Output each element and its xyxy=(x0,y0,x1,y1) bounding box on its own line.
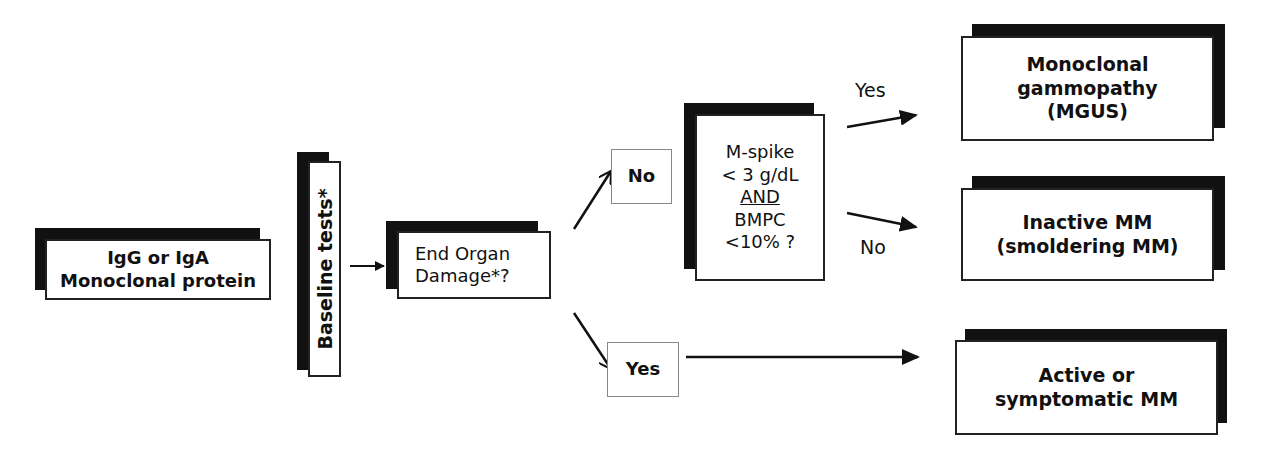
arrow-endorgan-to-no xyxy=(574,171,611,229)
endorgan-node-line-2: Damage*? xyxy=(415,265,510,288)
endorgan-node-line-1: End Organ xyxy=(415,243,510,266)
baseline-node: Baseline tests* xyxy=(308,161,341,377)
mgus-line-3: (MGUS) xyxy=(1017,100,1158,124)
criteria-no-label: No xyxy=(860,236,886,258)
active-node: Active or symptomatic MM xyxy=(955,340,1218,435)
no-branch-text: No xyxy=(628,165,655,188)
smoldering-node: Inactive MM (smoldering MM) xyxy=(961,188,1214,281)
criteria-line-3: AND xyxy=(722,186,799,209)
criteria-line-2: < 3 g/dL xyxy=(722,164,799,187)
active-line-1: Active or xyxy=(995,364,1178,388)
arrow-endorgan-to-yes xyxy=(574,313,611,369)
start-node-line-2: Monoclonal protein xyxy=(60,270,256,293)
smoldering-line-2: (smoldering MM) xyxy=(997,235,1179,259)
criteria-line-5: <10% ? xyxy=(722,231,799,254)
no-branch-node: No xyxy=(611,149,672,204)
smoldering-line-1: Inactive MM xyxy=(997,211,1179,235)
mgus-node: Monoclonal gammopathy (MGUS) xyxy=(961,36,1214,141)
mgus-line-1: Monoclonal xyxy=(1017,53,1158,77)
criteria-yes-label: Yes xyxy=(855,79,886,101)
start-node: IgG or IgA Monoclonal protein xyxy=(45,239,271,300)
yes-branch-node: Yes xyxy=(607,342,679,397)
yes-branch-text: Yes xyxy=(626,358,660,381)
criteria-line-1: M-spike xyxy=(722,141,799,164)
baseline-node-text: Baseline tests* xyxy=(314,188,336,349)
start-node-line-1: IgG or IgA xyxy=(60,247,256,270)
criteria-node: M-spike < 3 g/dL AND BMPC <10% ? xyxy=(695,114,825,281)
arrow-criteria-yes xyxy=(847,115,916,127)
mgus-line-2: gammopathy xyxy=(1017,77,1158,101)
endorgan-node: End Organ Damage*? xyxy=(397,231,551,299)
criteria-line-4: BMPC xyxy=(722,209,799,232)
arrow-criteria-no xyxy=(847,213,916,227)
active-line-2: symptomatic MM xyxy=(995,388,1178,412)
